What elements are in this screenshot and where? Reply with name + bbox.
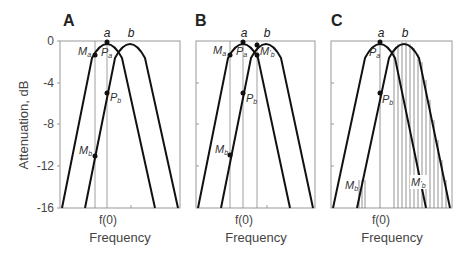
panel-c-label: C [331, 12, 343, 29]
panel-b-xtick-f0: f(0) [235, 213, 253, 227]
panel-c-peak-a: a [378, 26, 385, 40]
panel-a-xlabel: Frequency [89, 230, 151, 245]
panel-b-curve-a [198, 44, 290, 208]
panel-a-label-pa: Pa [101, 46, 112, 59]
panel-c: C a b [331, 12, 452, 245]
panel-b-point-mb [228, 153, 233, 158]
panel-a-label-mb: Mb [79, 144, 92, 157]
panel-a-yticks [57, 41, 131, 208]
panel-a-point-mb [93, 154, 98, 159]
panel-b-xlabel: Frequency [225, 230, 287, 245]
panel-a-point-pa [105, 40, 110, 45]
panel-a-label-ma: Ma [78, 45, 91, 58]
panel-b-peak-a: a [241, 26, 248, 40]
panel-a-xtick-f0: f(0) [99, 213, 117, 227]
panel-b-label-pa: Pa [236, 45, 247, 58]
svg-text:Mb: Mb [79, 144, 92, 157]
panel-a-curve-a [62, 44, 155, 208]
svg-text:Ma: Ma [213, 44, 226, 57]
y-tick-minus-16: -16 [37, 201, 55, 215]
svg-text:Pa: Pa [236, 45, 247, 58]
y-axis-title: Attenuation, dB [16, 81, 31, 170]
panel-c-curve-b [357, 44, 450, 208]
y-tick-0: 0 [47, 34, 54, 48]
panel-a-point-pb [105, 91, 110, 96]
panel-c-peak-b: b [402, 26, 409, 40]
panel-c-point-pa [378, 40, 383, 45]
panel-a-peak-a: a [104, 26, 111, 40]
panel-b-label-mb: Mb [215, 143, 228, 156]
panel-a: A a b Ma Pa Pb Mb f(0) Frequency [57, 12, 180, 245]
filter-attenuation-figure: Attenuation, dB 0 -4 -8 -12 -16 A a b [0, 0, 466, 254]
panel-b: B a b Ma Pa M'b Pb Mb f(0) Frequency [195, 12, 315, 245]
panel-b-point-pb [241, 91, 246, 96]
panel-c-xtick-f0: f(0) [372, 213, 390, 227]
panel-b-label-pb: Pb [246, 92, 257, 105]
panel-a-peak-b: b [128, 26, 135, 40]
panel-b-point-ma [228, 53, 233, 58]
panel-c-xlabel: Frequency [361, 230, 423, 245]
panel-a-curve-b [85, 44, 178, 208]
panel-c-label-pb: Pb [382, 93, 393, 106]
y-tick-labels: 0 -4 -8 -12 -16 [37, 34, 55, 215]
svg-text:Pb: Pb [110, 91, 121, 104]
panel-b-curve-b [221, 44, 313, 208]
panel-c-label-pa: Pa [369, 46, 380, 59]
panel-b-peak-b: b [264, 26, 271, 40]
panel-b-label-ma: Ma [213, 44, 226, 57]
panel-b-label: B [195, 12, 207, 29]
svg-text:Pb: Pb [246, 92, 257, 105]
panel-b-point-pa [241, 40, 246, 45]
svg-text:Pb: Pb [382, 93, 393, 106]
y-tick-minus-8: -8 [43, 117, 54, 131]
svg-text:Ma: Ma [78, 45, 91, 58]
svg-text:Pa: Pa [369, 46, 380, 59]
y-tick-minus-4: -4 [43, 76, 54, 90]
panel-a-label: A [63, 12, 75, 29]
panel-a-point-ma [93, 53, 98, 58]
panel-b-point-cross [255, 43, 260, 48]
y-tick-minus-12: -12 [37, 159, 55, 173]
svg-text:Pa: Pa [101, 46, 112, 59]
panel-a-label-pb: Pb [110, 91, 121, 104]
svg-text:Mb: Mb [215, 143, 228, 156]
panel-b-point-mb-prime [255, 53, 260, 58]
